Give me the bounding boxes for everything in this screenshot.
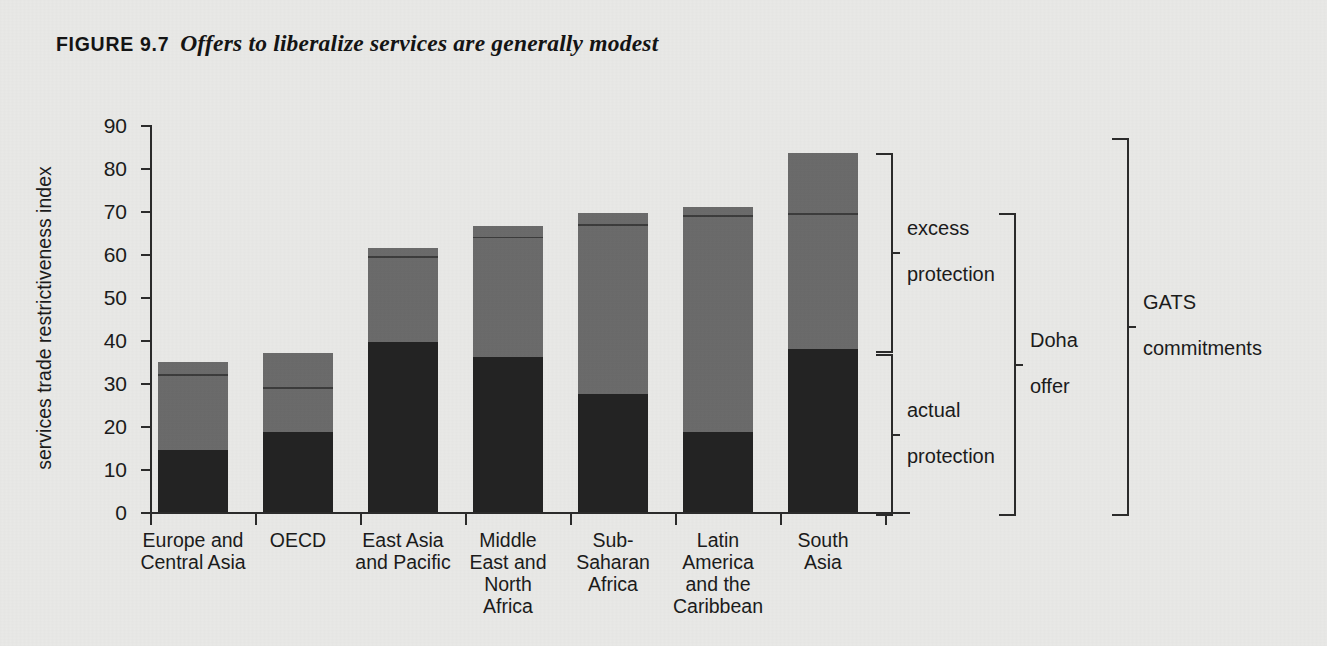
cat-line: Africa: [449, 595, 567, 617]
cat-line: and the: [659, 573, 777, 595]
y-tick-label-70: 70: [104, 201, 127, 222]
annotation-gats-commitments: GATS commitments: [1143, 268, 1262, 383]
y-tick-label-20: 20: [104, 416, 127, 437]
annotation-line: commitments: [1143, 337, 1262, 360]
doha-offer-marker: [368, 256, 438, 258]
y-tick-70: 70: [141, 211, 150, 213]
bar-east-asia-and-pacific[interactable]: [368, 248, 438, 513]
annotation-line: protection: [907, 263, 995, 286]
x-category-label-europe-and-central-asia: Europe and Central Asia: [134, 529, 252, 573]
bar-segment-actual-protection: [368, 342, 438, 512]
bracket-nub: [891, 252, 900, 254]
y-tick-label-90: 90: [104, 115, 127, 136]
x-tick-3: [465, 514, 467, 525]
bar-segment-actual-protection: [473, 357, 543, 512]
x-category-label-south-asia: South Asia: [764, 529, 882, 573]
cat-line: Middle: [449, 529, 567, 551]
bracket-doha-offer: [999, 213, 1016, 516]
bar-segment-actual-protection: [578, 394, 648, 512]
y-tick-label-60: 60: [104, 244, 127, 265]
cat-line: Europe and: [134, 529, 252, 551]
x-tick-2: [360, 514, 362, 525]
y-tick-label-10: 10: [104, 459, 127, 480]
cat-line: OECD: [239, 529, 357, 551]
y-tick-label-50: 50: [104, 287, 127, 308]
figure-number: FIGURE 9.7: [56, 33, 169, 55]
x-category-label-sub-saharan-africa: Sub- Saharan Africa: [554, 529, 672, 595]
cat-line: and Pacific: [344, 551, 462, 573]
x-tick-1: [255, 514, 257, 525]
cat-line: East Asia: [344, 529, 462, 551]
y-tick-90: 90: [141, 125, 150, 127]
annotation-line: protection: [907, 445, 995, 468]
bar-latin-america-and-the-caribbean[interactable]: [683, 207, 753, 512]
cat-line: North: [449, 573, 567, 595]
bar-south-asia[interactable]: [788, 153, 858, 512]
cat-line: America: [659, 551, 777, 573]
bracket-nub: [1014, 364, 1023, 366]
bar-middle-east-and-north-africa[interactable]: [473, 226, 543, 512]
x-category-label-oecd: OECD: [239, 529, 357, 551]
x-axis-line: [150, 512, 910, 514]
x-tick-5: [675, 514, 677, 525]
y-tick-60: 60: [141, 254, 150, 256]
bar-europe-and-central-asia[interactable]: [158, 362, 228, 513]
y-tick-50: 50: [141, 297, 150, 299]
cat-line: Saharan: [554, 551, 672, 573]
figure-title-text: Offers to liberalize services are genera…: [180, 30, 658, 56]
doha-offer-marker: [788, 213, 858, 215]
cat-line: South: [764, 529, 882, 551]
annotation-excess-protection: excess protection: [907, 194, 995, 309]
cat-line: East and: [449, 551, 567, 573]
x-category-label-east-asia-and-pacific: East Asia and Pacific: [344, 529, 462, 573]
y-tick-30: 30: [141, 383, 150, 385]
doha-offer-marker: [683, 215, 753, 217]
y-tick-label-0: 0: [115, 502, 127, 523]
doha-offer-marker: [158, 374, 228, 376]
annotation-doha-offer: Doha offer: [1030, 306, 1078, 421]
x-tick-6: [780, 514, 782, 525]
bar-segment-actual-protection: [788, 349, 858, 512]
figure-panel: FIGURE 9.7Offers to liberalize services …: [0, 0, 1327, 646]
bracket-excess-protection: [876, 153, 893, 353]
cat-line: Caribbean: [659, 595, 777, 617]
y-tick-20: 20: [141, 426, 150, 428]
bracket-gats-commitments: [1112, 138, 1129, 516]
bar-segment-actual-protection: [263, 432, 333, 512]
chart-plot-area: services trade restrictiveness index 90 …: [150, 125, 910, 512]
doha-offer-marker: [263, 387, 333, 389]
y-tick-40: 40: [141, 340, 150, 342]
x-category-label-latin-america-and-the-caribbean: Latin America and the Caribbean: [659, 529, 777, 617]
cat-line: Sub-: [554, 529, 672, 551]
x-category-label-middle-east-and-north-africa: Middle East and North Africa: [449, 529, 567, 617]
bracket-nub: [891, 434, 900, 436]
cat-line: Africa: [554, 573, 672, 595]
y-tick-0: 0: [141, 512, 150, 514]
x-tick-4: [570, 514, 572, 525]
y-tick-10: 10: [141, 469, 150, 471]
doha-offer-marker: [473, 237, 543, 239]
annotation-line: actual: [907, 399, 995, 422]
bar-oecd[interactable]: [263, 353, 333, 512]
bar-segment-actual-protection: [683, 432, 753, 512]
annotation-line: Doha: [1030, 329, 1078, 352]
doha-offer-marker: [578, 224, 648, 226]
bar-sub-saharan-africa[interactable]: [578, 213, 648, 512]
y-tick-label-30: 30: [104, 373, 127, 394]
y-tick-80: 80: [141, 168, 150, 170]
y-tick-label-40: 40: [104, 330, 127, 351]
y-axis-title: services trade restrictiveness index: [33, 166, 56, 469]
bracket-actual-protection: [876, 354, 893, 516]
annotation-line: GATS: [1143, 291, 1262, 314]
cat-line: Central Asia: [134, 551, 252, 573]
x-tick-0: [150, 514, 152, 525]
annotation-line: offer: [1030, 375, 1078, 398]
cat-line: Latin: [659, 529, 777, 551]
cat-line: Asia: [764, 551, 882, 573]
figure-title: FIGURE 9.7Offers to liberalize services …: [56, 30, 658, 57]
bar-segment-actual-protection: [158, 450, 228, 512]
annotation-line: excess: [907, 217, 995, 240]
y-tick-label-80: 80: [104, 158, 127, 179]
bracket-nub: [1127, 326, 1136, 328]
annotation-actual-protection: actual protection: [907, 376, 995, 491]
